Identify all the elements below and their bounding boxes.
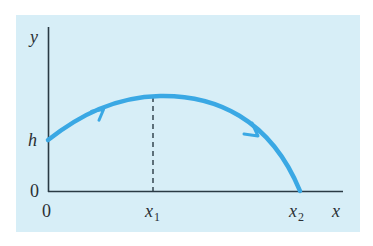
- x2-label: x2: [289, 202, 304, 220]
- trajectory-curve: [48, 96, 300, 191]
- y-axis-label: y: [30, 28, 38, 46]
- x1-label-sub: 1: [154, 210, 160, 224]
- x2-label-sub: 2: [298, 210, 304, 224]
- x1-label: x1: [145, 202, 160, 220]
- y-origin-label: 0: [30, 182, 39, 200]
- h-label: h: [28, 131, 37, 149]
- x-origin-label: 0: [42, 202, 51, 220]
- x2-label-main: x: [289, 201, 297, 221]
- trajectory-diagram: [0, 0, 373, 246]
- x1-label-main: x: [145, 201, 153, 221]
- direction-arrow-icon: [92, 109, 105, 121]
- x-axis-label: x: [332, 202, 340, 220]
